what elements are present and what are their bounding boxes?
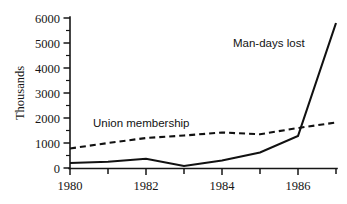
y-tick-label-0: 0 (54, 162, 60, 176)
y-axis-title: Thousands (13, 66, 27, 120)
x-tick-label-1980: 1980 (58, 179, 83, 193)
x-tick-label-1986: 1986 (286, 179, 311, 193)
y-tick-label-5000: 5000 (35, 37, 60, 51)
x-axis-group: 1980 1982 1984 1986 (58, 169, 338, 194)
chart-figure: 6000 5000 4000 3000 2000 1000 0 Thousand… (0, 0, 347, 204)
y-tick-label-1000: 1000 (35, 137, 60, 151)
y-axis-group: 6000 5000 4000 3000 2000 1000 0 Thousand… (13, 12, 70, 176)
x-tick-label-1984: 1984 (210, 179, 236, 193)
y-tick-label-6000: 6000 (35, 12, 60, 26)
x-tick-label-1982: 1982 (134, 179, 159, 193)
y-tick-label-2000: 2000 (35, 112, 60, 126)
y-tick-label-4000: 4000 (35, 62, 60, 76)
line-chart-canvas: 6000 5000 4000 3000 2000 1000 0 Thousand… (0, 0, 347, 204)
annotations-group: Man-days lost Union membership (93, 37, 305, 129)
label-union-membership: Union membership (93, 117, 190, 129)
label-man-days-lost: Man-days lost (233, 37, 305, 49)
y-tick-label-3000: 3000 (35, 87, 60, 101)
